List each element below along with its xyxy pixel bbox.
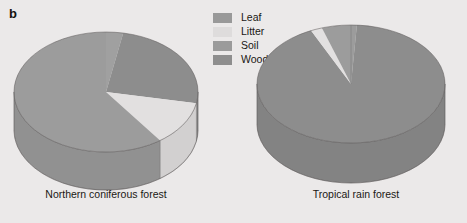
legend-swatch-leaf	[213, 13, 232, 23]
figure-panel: b Leaf Litter Soil Wood Northern conifer…	[0, 0, 467, 223]
legend-swatch-wood	[213, 55, 232, 65]
pie-left-svg	[8, 24, 204, 184]
pie-chart-northern-coniferous-forest	[8, 24, 204, 184]
legend-item-leaf: Leaf	[213, 11, 309, 24]
pie-left-caption: Northern coniferous forest	[0, 189, 212, 200]
legend-swatch-litter	[213, 27, 232, 37]
legend-label-leaf: Leaf	[241, 12, 261, 23]
panel-letter: b	[9, 7, 17, 20]
pie-right-caption: Tropical rain forest	[250, 189, 462, 200]
pie-right-svg	[255, 24, 455, 184]
pie-top-face	[14, 32, 198, 152]
pie-chart-tropical-rain-forest	[255, 24, 455, 184]
legend-swatch-soil	[213, 41, 232, 51]
